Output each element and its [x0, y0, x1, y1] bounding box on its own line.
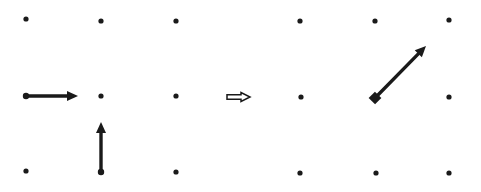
- grid-dot: [173, 169, 178, 174]
- vertical-arrow-icon: [96, 122, 106, 175]
- grid-dot: [373, 170, 378, 175]
- grid-dot: [446, 170, 451, 175]
- grid-dot: [297, 18, 302, 23]
- grid-dot: [23, 168, 28, 173]
- grid-dot: [372, 18, 377, 23]
- grid-dot: [173, 93, 178, 98]
- grid-dot: [23, 16, 28, 21]
- grid-dot: [98, 18, 103, 23]
- arrows: [23, 46, 426, 175]
- vector-diagram: [0, 0, 481, 192]
- transform-arrow-icon: [227, 93, 250, 102]
- diagonal-arrow-icon: [369, 46, 426, 104]
- grid-dot: [446, 94, 451, 99]
- grid-dot: [98, 93, 103, 98]
- horizontal-arrow-icon: [23, 91, 78, 101]
- grid-dot: [298, 94, 303, 99]
- grid-dot: [446, 17, 451, 22]
- grid-dot: [173, 18, 178, 23]
- grid-dot: [297, 170, 302, 175]
